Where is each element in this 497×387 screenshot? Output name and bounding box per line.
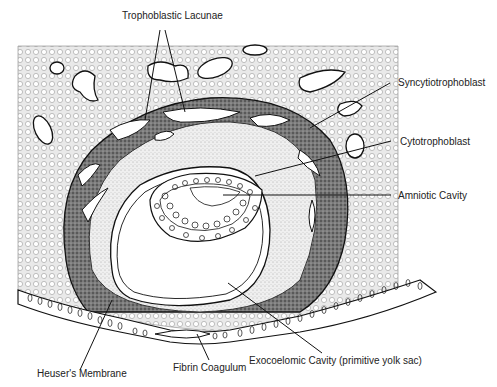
label-fibrin-coagulum: Fibrin Coagulum xyxy=(173,363,246,373)
label-amniotic-cavity: Amniotic Cavity xyxy=(398,191,467,201)
label-syncytiotrophoblast: Syncytiotrophoblast xyxy=(398,78,485,88)
label-heusers-membrane: Heuser's Membrane xyxy=(37,369,127,379)
label-exocoelomic-cavity: Exocoelomic Cavity (primitive yolk sac) xyxy=(249,356,422,366)
label-cytotrophoblast: Cytotrophoblast xyxy=(400,137,470,147)
label-trophoblastic-lacunae: Trophoblastic Lacunae xyxy=(122,11,223,21)
